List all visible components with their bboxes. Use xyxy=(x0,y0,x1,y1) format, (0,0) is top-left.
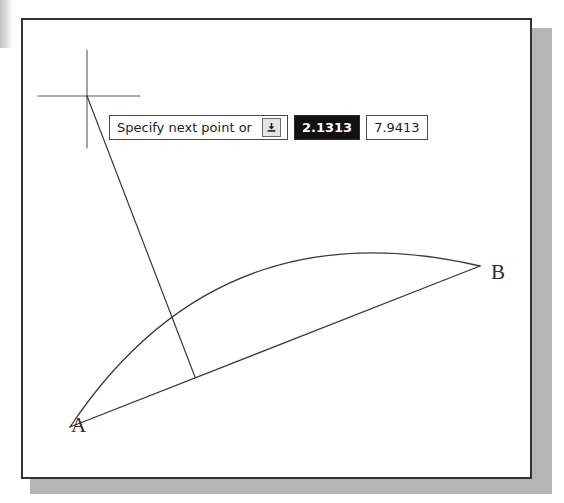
x-coordinate-input[interactable]: 2.1313 xyxy=(294,115,360,140)
drawing-canvas[interactable] xyxy=(23,20,530,477)
command-prompt-box: Specify next point or xyxy=(109,115,288,140)
cad-drawing-window[interactable]: A B Specify next point or 2.1313 7.9413 xyxy=(21,18,532,479)
y-coordinate-input[interactable]: 7.9413 xyxy=(366,115,428,140)
vertex-label-a: A xyxy=(71,413,87,438)
x-coordinate-value: 2.1313 xyxy=(302,121,352,134)
down-arrow-into-tray-icon[interactable] xyxy=(262,118,281,137)
scan-artifact xyxy=(0,0,13,48)
command-prompt-text: Specify next point or xyxy=(117,121,252,134)
vertex-label-b: B xyxy=(491,260,506,285)
chord-line xyxy=(70,266,480,427)
dynamic-input-tooltip[interactable]: Specify next point or 2.1313 7.9413 xyxy=(109,115,428,140)
y-coordinate-value: 7.9413 xyxy=(374,121,420,134)
arc-segment xyxy=(70,253,480,427)
